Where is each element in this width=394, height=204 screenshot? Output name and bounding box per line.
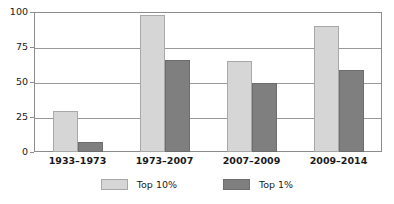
y-tick-label-25: 25 (2, 112, 28, 122)
chart-legend: Top 10%Top 1% (0, 179, 394, 190)
y-tick-label-100: 100 (2, 7, 28, 17)
dark-gray-swatch (223, 179, 250, 190)
x-tick-label-3: 2009–2014 (295, 156, 382, 166)
legend-label-1: Top 1% (259, 180, 293, 190)
gridline-75 (35, 48, 381, 49)
grouped-bar-chart: 0255075100 1933–19731973–20072007–200920… (0, 0, 394, 204)
legend-item-0: Top 10% (101, 179, 177, 190)
plot-area (34, 12, 382, 152)
y-tick-label-75: 75 (2, 42, 28, 52)
light-gray-swatch (101, 179, 128, 190)
y-tick-label-50: 50 (2, 77, 28, 87)
legend-item-1: Top 1% (223, 179, 293, 190)
gridline-25 (35, 118, 381, 119)
x-tick-label-0: 1933–1973 (34, 156, 121, 166)
x-tick-label-1: 1973–2007 (121, 156, 208, 166)
legend-label-0: Top 10% (137, 180, 177, 190)
y-tick-label-0: 0 (2, 147, 28, 157)
gridline-50 (35, 83, 381, 84)
x-tick-label-2: 2007–2009 (208, 156, 295, 166)
y-tick-mark-0 (30, 152, 34, 153)
